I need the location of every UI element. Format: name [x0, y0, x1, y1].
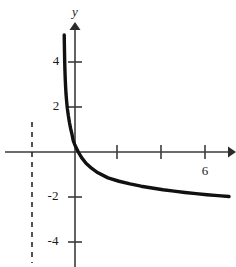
x-axis-arrowhead	[228, 147, 236, 158]
function-graph: y 6 4 2 -2 -4	[0, 0, 236, 267]
figure-container: y 6 4 2 -2 -4	[0, 0, 236, 267]
y-tick-label-neg2: -2	[48, 188, 59, 203]
y-tick-label-2: 2	[53, 98, 60, 113]
y-axis-label: y	[70, 4, 78, 19]
y-axis-arrowhead	[70, 22, 81, 30]
y-tick-label-4: 4	[53, 53, 60, 68]
x-tick-label-6: 6	[202, 163, 209, 178]
y-tick-label-neg4: -4	[48, 233, 59, 248]
